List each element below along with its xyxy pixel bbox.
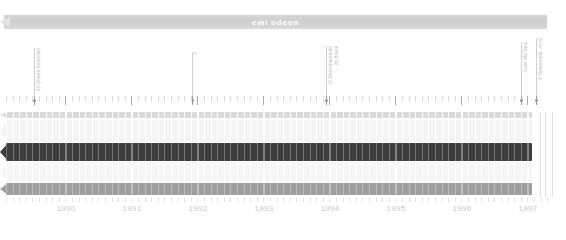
- minor-gridline: [230, 143, 231, 161]
- minor-gridline: [435, 143, 436, 161]
- minor-gridline: [349, 162, 350, 182]
- minor-gridline: [257, 183, 258, 195]
- axis-tick: [488, 198, 489, 202]
- ruler-tick-minor: [250, 96, 251, 102]
- minor-gridline: [85, 112, 86, 118]
- year-gridline: [131, 162, 133, 182]
- minor-gridline: [270, 143, 271, 161]
- minor-gridline: [112, 162, 113, 182]
- minor-gridline: [171, 183, 172, 195]
- minor-gridline: [230, 112, 231, 118]
- minor-gridline: [514, 162, 515, 182]
- ruler-tick-minor: [323, 96, 324, 102]
- ruler: [0, 96, 566, 106]
- minor-gridline: [349, 120, 350, 142]
- minor-gridline: [158, 120, 159, 142]
- ruler-tick-minor: [112, 96, 113, 102]
- minor-gridline: [151, 183, 152, 195]
- axis-tick: [224, 198, 225, 202]
- minor-gridline: [468, 162, 469, 182]
- minor-gridline: [257, 143, 258, 161]
- minor-gridline: [382, 183, 383, 195]
- minor-gridline: [211, 183, 212, 195]
- minor-gridline: [508, 120, 509, 142]
- minor-gridline: [244, 183, 245, 195]
- minor-gridline: [468, 112, 469, 118]
- ruler-tick-minor: [204, 96, 205, 102]
- axis-tick: [415, 198, 416, 202]
- axis-tick: [13, 198, 14, 202]
- chart-band: [6, 162, 532, 182]
- axis-year-label: 1993: [255, 204, 274, 213]
- minor-gridline: [217, 112, 218, 118]
- minor-gridline: [422, 120, 423, 142]
- ruler-tick-minor: [158, 96, 159, 102]
- axis-tick: [125, 198, 126, 202]
- axis-tick: [105, 198, 106, 202]
- minor-gridline: [296, 183, 297, 195]
- minor-gridline: [422, 183, 423, 195]
- minor-gridline: [39, 112, 40, 118]
- minor-gridline: [415, 143, 416, 161]
- axis-year-label: 1994: [321, 204, 340, 213]
- ruler-tick-major: [131, 96, 132, 105]
- minor-gridline: [402, 143, 403, 161]
- ruler-tick-minor: [217, 96, 218, 102]
- year-gridline: [527, 183, 529, 195]
- minor-gridline: [237, 112, 238, 118]
- ruler-tick-minor: [52, 96, 53, 102]
- minor-gridline: [72, 143, 73, 161]
- ruler-tick-minor: [475, 96, 476, 102]
- minor-gridline: [217, 120, 218, 142]
- ruler-tick-minor: [296, 96, 297, 102]
- minor-gridline: [178, 120, 179, 142]
- minor-gridline: [39, 120, 40, 142]
- minor-gridline: [105, 162, 106, 182]
- minor-gridline: [19, 162, 20, 182]
- annotation-label-line: ?: [194, 52, 199, 55]
- axis-tick: [237, 198, 238, 202]
- minor-gridline: [138, 143, 139, 161]
- ruler-tick-minor: [171, 96, 172, 102]
- minor-gridline: [230, 183, 231, 195]
- minor-gridline: [46, 143, 47, 161]
- ruler-tick-minor: [343, 96, 344, 102]
- minor-gridline: [250, 162, 251, 182]
- minor-gridline: [521, 112, 522, 118]
- minor-gridline: [389, 162, 390, 182]
- minor-gridline: [26, 143, 27, 161]
- ruler-tick-major: [461, 96, 462, 105]
- axis-tick: [349, 198, 350, 202]
- axis-tick: [145, 198, 146, 202]
- minor-gridline: [521, 120, 522, 142]
- minor-gridline: [488, 112, 489, 118]
- minor-gridline: [178, 162, 179, 182]
- ruler-tick-minor: [488, 96, 489, 102]
- annotation-label-line: Love Me Now: [523, 42, 528, 72]
- annotation-label-group: A Temporada, no O: [538, 38, 544, 100]
- chart-band: [6, 112, 532, 118]
- axis-tick: [32, 198, 33, 202]
- minor-gridline: [343, 162, 344, 182]
- axis-tick: [475, 198, 476, 202]
- minor-gridline: [19, 120, 20, 142]
- ruler-tick-minor: [455, 96, 456, 102]
- minor-gridline: [204, 143, 205, 161]
- minor-gridline: [145, 143, 146, 161]
- minor-gridline: [442, 112, 443, 118]
- axis-year-label: 1995: [387, 204, 406, 213]
- minor-gridline: [428, 162, 429, 182]
- year-gridline: [395, 143, 397, 161]
- ruler-tick-minor: [422, 96, 423, 102]
- minor-gridline: [105, 120, 106, 142]
- ruler-tick-minor: [376, 96, 377, 102]
- minor-gridline: [422, 112, 423, 118]
- minor-gridline: [125, 112, 126, 118]
- year-gridline: [65, 143, 67, 161]
- minor-gridline: [323, 143, 324, 161]
- minor-gridline: [488, 183, 489, 195]
- minor-gridline: [514, 183, 515, 195]
- minor-gridline: [158, 162, 159, 182]
- year-gridline: [65, 162, 67, 182]
- ruler-tick-minor: [468, 96, 469, 102]
